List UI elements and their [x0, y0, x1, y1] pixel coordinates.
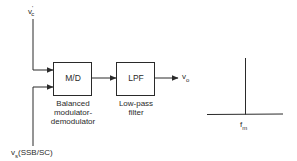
- lpf-caption-line-1: Low-pass: [110, 99, 162, 108]
- marker-sub: m: [242, 125, 247, 131]
- lpf-block-label: LPF: [117, 74, 155, 83]
- signal-suffix: (SSB/SC): [18, 148, 53, 157]
- md-block-label: M/D: [54, 74, 92, 83]
- md-caption-line-2: modulator-: [40, 108, 106, 117]
- carrier-input-label: v'c: [28, 4, 34, 19]
- md-caption-line-3: demodulator: [40, 117, 106, 126]
- output-sub: o: [186, 77, 189, 83]
- lpf-block-caption: Low-pass filter: [110, 99, 162, 117]
- signal-input-label: vs(SSB/SC): [11, 148, 53, 161]
- carrier-input-wire: [33, 19, 53, 70]
- carrier-sub: c: [31, 11, 34, 17]
- md-block-caption: Balanced modulator- demodulator: [40, 99, 106, 126]
- output-label: vo: [182, 72, 189, 85]
- lpf-caption-line-2: filter: [110, 108, 162, 117]
- spectrum-marker-label: fm: [240, 120, 247, 133]
- md-caption-line-1: Balanced: [40, 99, 106, 108]
